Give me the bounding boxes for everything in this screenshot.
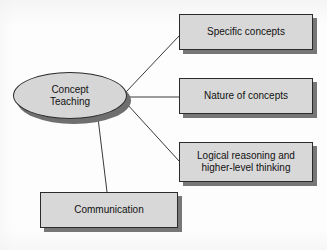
concept-teaching-diagram: Concept Teaching Specific concepts Natur… xyxy=(0,0,327,250)
edge-concept-to-logical-reasoning xyxy=(127,104,179,161)
node-body: Communication xyxy=(40,192,178,228)
node-body: Logical reasoning and higher-level think… xyxy=(179,142,313,182)
node-nature-of-concepts[interactable]: Nature of concepts xyxy=(179,78,313,114)
node-body: Concept Teaching xyxy=(13,72,127,119)
node-concept-teaching[interactable]: Concept Teaching xyxy=(13,72,131,124)
edge-concept-to-communication xyxy=(98,118,107,192)
edge-concept-to-specific-concepts xyxy=(126,36,179,92)
node-logical-reasoning[interactable]: Logical reasoning and higher-level think… xyxy=(179,142,313,182)
node-specific-concepts[interactable]: Specific concepts xyxy=(179,14,313,50)
node-label-logical-reasoning: Logical reasoning and higher-level think… xyxy=(197,150,295,174)
node-label-specific-concepts: Specific concepts xyxy=(207,26,285,38)
node-body: Nature of concepts xyxy=(179,78,313,114)
node-label-communication: Communication xyxy=(74,204,143,216)
node-body: Specific concepts xyxy=(179,14,313,50)
node-communication[interactable]: Communication xyxy=(40,192,178,228)
node-label-nature-of-concepts: Nature of concepts xyxy=(204,90,288,102)
node-label-concept-teaching: Concept Teaching xyxy=(50,84,90,108)
